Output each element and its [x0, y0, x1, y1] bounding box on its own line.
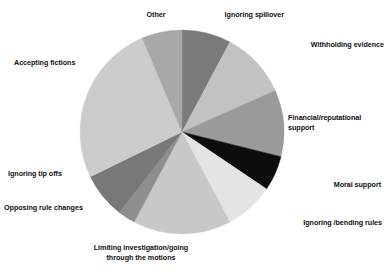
pie-label-limiting-investigation: Limiting investigation/going through the…: [58, 243, 224, 262]
pie-label-moral-support: Moral support: [285, 180, 381, 190]
pie-label-ignoring-bending-rules: Ignoring /bending rules: [248, 218, 382, 228]
pie-label-ignoring-tip-offs: Ignoring tip offs: [8, 169, 80, 179]
pie-label-accepting-fictions: Accepting fictions: [14, 58, 92, 68]
pie-label-ignoring-spillover: Ignoring spillover: [186, 10, 284, 20]
pie-label-financial-reputational-support: Financial/reputational support: [288, 113, 386, 132]
pie-label-opposing-rule-changes: Opposing rule changes: [4, 203, 102, 213]
pie-label-withholding-evidence: Withholding evidence: [256, 40, 384, 50]
pie-chart: Other Ignoring spillover Withholding evi…: [0, 0, 386, 276]
pie-slice-group: [80, 30, 284, 234]
pie-label-other: Other: [126, 10, 186, 20]
